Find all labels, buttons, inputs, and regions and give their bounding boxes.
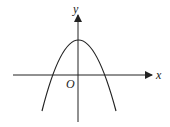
coordinate-diagram: x y O [0,0,170,127]
y-axis-label: y [72,2,79,16]
x-axis-label: x [155,68,162,82]
origin-label: O [66,77,75,91]
